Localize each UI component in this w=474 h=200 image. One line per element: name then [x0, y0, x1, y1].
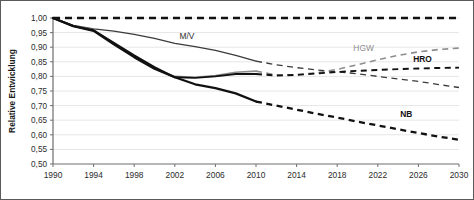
x-tick-label: 2002	[165, 170, 184, 180]
y-tick-label: 0,65	[31, 116, 47, 125]
x-tick-label: 1994	[84, 170, 103, 180]
relative-entwicklung-line-chart: 0,500,550,600,650,700,750,800,850,900,95…	[1, 1, 474, 200]
y-tick-label: 0,70	[31, 102, 47, 111]
series-line-m-v-forecast	[256, 61, 459, 87]
chart-y-axis-title: Relative Entwicklung	[7, 49, 17, 133]
series-line-hro-forecast	[256, 68, 459, 76]
y-tick-label: 1,00	[31, 14, 47, 23]
x-tick-label: 2026	[409, 170, 428, 180]
y-tick-label: 0,80	[31, 72, 47, 81]
x-tick-label: 1990	[44, 170, 63, 180]
series-label-nb: NB	[400, 109, 412, 119]
series-label-hgw: HGW	[353, 43, 374, 53]
y-axis-title: Relative Entwicklung	[7, 49, 17, 133]
x-tick-label: 2014	[287, 170, 306, 180]
y-tick-label: 0,75	[31, 87, 47, 96]
x-tick-label: 2022	[368, 170, 387, 180]
y-tick-label: 0,85	[31, 58, 47, 67]
x-tick-label: 2010	[247, 170, 266, 180]
series-label-hro: HRO	[413, 54, 432, 64]
series-line-nb-history	[53, 18, 256, 102]
chart-x-tick-labels: 1990199419982002200620102014201820222026…	[44, 170, 469, 180]
series-line-m-v-history	[53, 18, 256, 61]
chart-figure: 0,500,550,600,650,700,750,800,850,900,95…	[0, 0, 474, 200]
y-tick-label: 0,90	[31, 43, 47, 52]
y-tick-label: 0,50	[31, 160, 47, 169]
y-tick-label: 0,95	[31, 29, 47, 38]
x-tick-label: 2006	[206, 170, 225, 180]
chart-gridlines	[53, 18, 459, 149]
chart-series-lines	[53, 18, 459, 140]
y-tick-label: 0,60	[31, 131, 47, 140]
y-tick-label: 0,55	[31, 145, 47, 154]
series-label-m-v: M/V	[180, 31, 195, 41]
x-tick-label: 2030	[450, 170, 469, 180]
x-tick-label: 2018	[328, 170, 347, 180]
x-tick-label: 1998	[125, 170, 144, 180]
chart-y-tick-labels: 0,500,550,600,650,700,750,800,850,900,95…	[31, 14, 47, 169]
